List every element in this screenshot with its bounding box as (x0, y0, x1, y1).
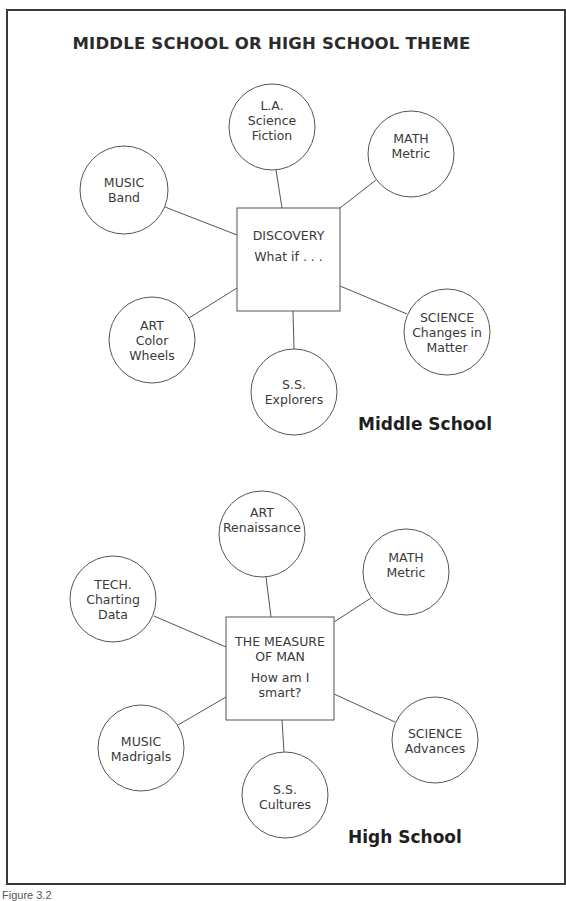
node-topic: Color (136, 333, 169, 348)
node-subject: ART (250, 505, 274, 520)
center-subtitle: How am I (251, 670, 310, 685)
node-hs-science: SCIENCE Advances (392, 723, 478, 759)
figure-caption: Figure 3.2 (2, 889, 52, 901)
node-subject: MUSIC (104, 175, 144, 190)
connector-ms-music (165, 207, 237, 235)
node-ms-ss: S.S. Explorers (251, 374, 337, 410)
center-ms-discovery: DISCOVERY What if . . . (237, 228, 340, 278)
connector-ms-la (276, 170, 282, 208)
node-subject: ART (140, 318, 164, 333)
node-topic: Charting (86, 592, 140, 607)
center-subtitle: What if . . . (254, 249, 323, 264)
node-hs-tech: TECH. Charting Data (70, 567, 156, 631)
node-topic: Matter (426, 340, 467, 355)
node-hs-math: MATH Metric (363, 547, 449, 583)
node-subject: MUSIC (121, 734, 161, 749)
node-subject: SCIENCE (420, 310, 474, 325)
node-topic: Changes in (412, 325, 482, 340)
node-topic: Fiction (252, 128, 293, 143)
node-topic: Wheels (129, 348, 175, 363)
connector-hs-science (334, 694, 395, 722)
node-hs-art: ART Renaissance (214, 502, 310, 538)
connector-hs-math (334, 598, 371, 622)
node-topic: Renaissance (223, 520, 301, 535)
node-ms-math: MATH Metric (368, 128, 454, 164)
center-subtitle: smart? (258, 685, 301, 700)
node-ms-la: L.A. Science Fiction (229, 84, 315, 156)
connector-hs-tech (154, 616, 226, 647)
connector-ms-science (340, 286, 407, 314)
center-hs-measure-of-man: THE MEASURE OF MAN How am I smart? (226, 634, 334, 708)
node-subject: TECH. (94, 577, 131, 592)
node-subject: MATH (393, 131, 428, 146)
node-topic: Data (98, 607, 128, 622)
section-label-high-school: High School (348, 827, 462, 847)
node-topic: Science (248, 113, 296, 128)
node-topic: Metric (387, 565, 426, 580)
node-topic: Metric (392, 146, 431, 161)
center-title: DISCOVERY (253, 228, 325, 243)
node-subject: S.S. (282, 377, 306, 392)
connector-ms-ss (293, 311, 294, 349)
node-topic: Band (108, 190, 140, 205)
node-topic: Explorers (265, 392, 324, 407)
center-title: THE MEASURE (235, 634, 325, 649)
node-ms-science: SCIENCE Changes in Matter (404, 300, 490, 364)
connector-hs-art (266, 577, 271, 617)
node-subject: L.A. (260, 98, 283, 113)
node-subject: SCIENCE (408, 726, 462, 741)
node-subject: MATH (388, 550, 423, 565)
node-topic: Cultures (259, 797, 311, 812)
node-hs-ss: S.S. Cultures (242, 779, 328, 815)
connector-ms-art (189, 288, 237, 318)
connector-hs-ss (282, 720, 284, 752)
node-ms-music: MUSIC Band (80, 172, 168, 208)
section-label-middle-school: Middle School (358, 414, 492, 434)
node-topic: Madrigals (111, 749, 172, 764)
node-topic: Advances (405, 741, 465, 756)
node-ms-art: ART Color Wheels (109, 308, 195, 372)
connector-hs-music (178, 697, 226, 725)
connector-ms-math (340, 180, 376, 208)
center-title: OF MAN (255, 649, 305, 664)
node-hs-music: MUSIC Madrigals (96, 731, 186, 767)
node-subject: S.S. (273, 782, 297, 797)
